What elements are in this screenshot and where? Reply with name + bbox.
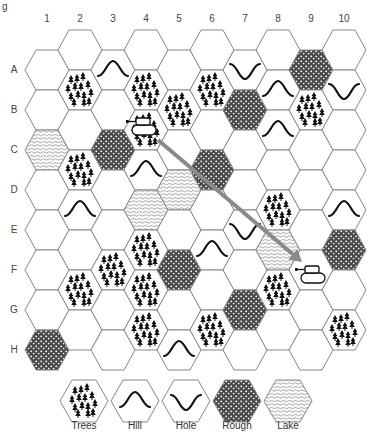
terrain-legend: TreesHillHoleRoughLake xyxy=(60,380,312,431)
column-label: 4 xyxy=(143,13,149,24)
row-label: E xyxy=(11,224,18,235)
row-labels: ABCDEFGH xyxy=(10,64,18,355)
legend-label: Rough xyxy=(222,420,251,431)
column-label: 9 xyxy=(308,13,314,24)
row-label: G xyxy=(10,304,18,315)
row-label: B xyxy=(11,104,18,115)
column-label: 10 xyxy=(338,13,350,24)
column-label: 6 xyxy=(209,13,215,24)
legend-label: Hill xyxy=(128,420,142,431)
legend-label: Trees xyxy=(71,420,96,431)
hex-grid xyxy=(25,30,366,370)
figure-label: g xyxy=(2,1,8,12)
column-label: 7 xyxy=(242,13,248,24)
row-label: C xyxy=(10,144,17,155)
legend-hill xyxy=(111,380,159,422)
hex-map: g 12345678910 ABCDEFGH TreesHillHoleRoug… xyxy=(0,0,382,442)
column-labels: 12345678910 xyxy=(44,13,350,24)
column-label: 2 xyxy=(77,13,83,24)
row-label: A xyxy=(11,64,18,75)
legend-hole xyxy=(162,380,210,422)
column-label: 5 xyxy=(176,13,182,24)
legend-rough xyxy=(213,380,261,422)
column-label: 3 xyxy=(110,13,116,24)
row-label: D xyxy=(10,184,17,195)
legend-label: Lake xyxy=(277,420,299,431)
row-label: H xyxy=(10,344,17,355)
column-label: 1 xyxy=(44,13,50,24)
legend-lake xyxy=(264,380,312,422)
legend-trees xyxy=(60,380,108,422)
column-label: 8 xyxy=(275,13,281,24)
row-label: F xyxy=(11,264,17,275)
legend-label: Hole xyxy=(176,420,197,431)
